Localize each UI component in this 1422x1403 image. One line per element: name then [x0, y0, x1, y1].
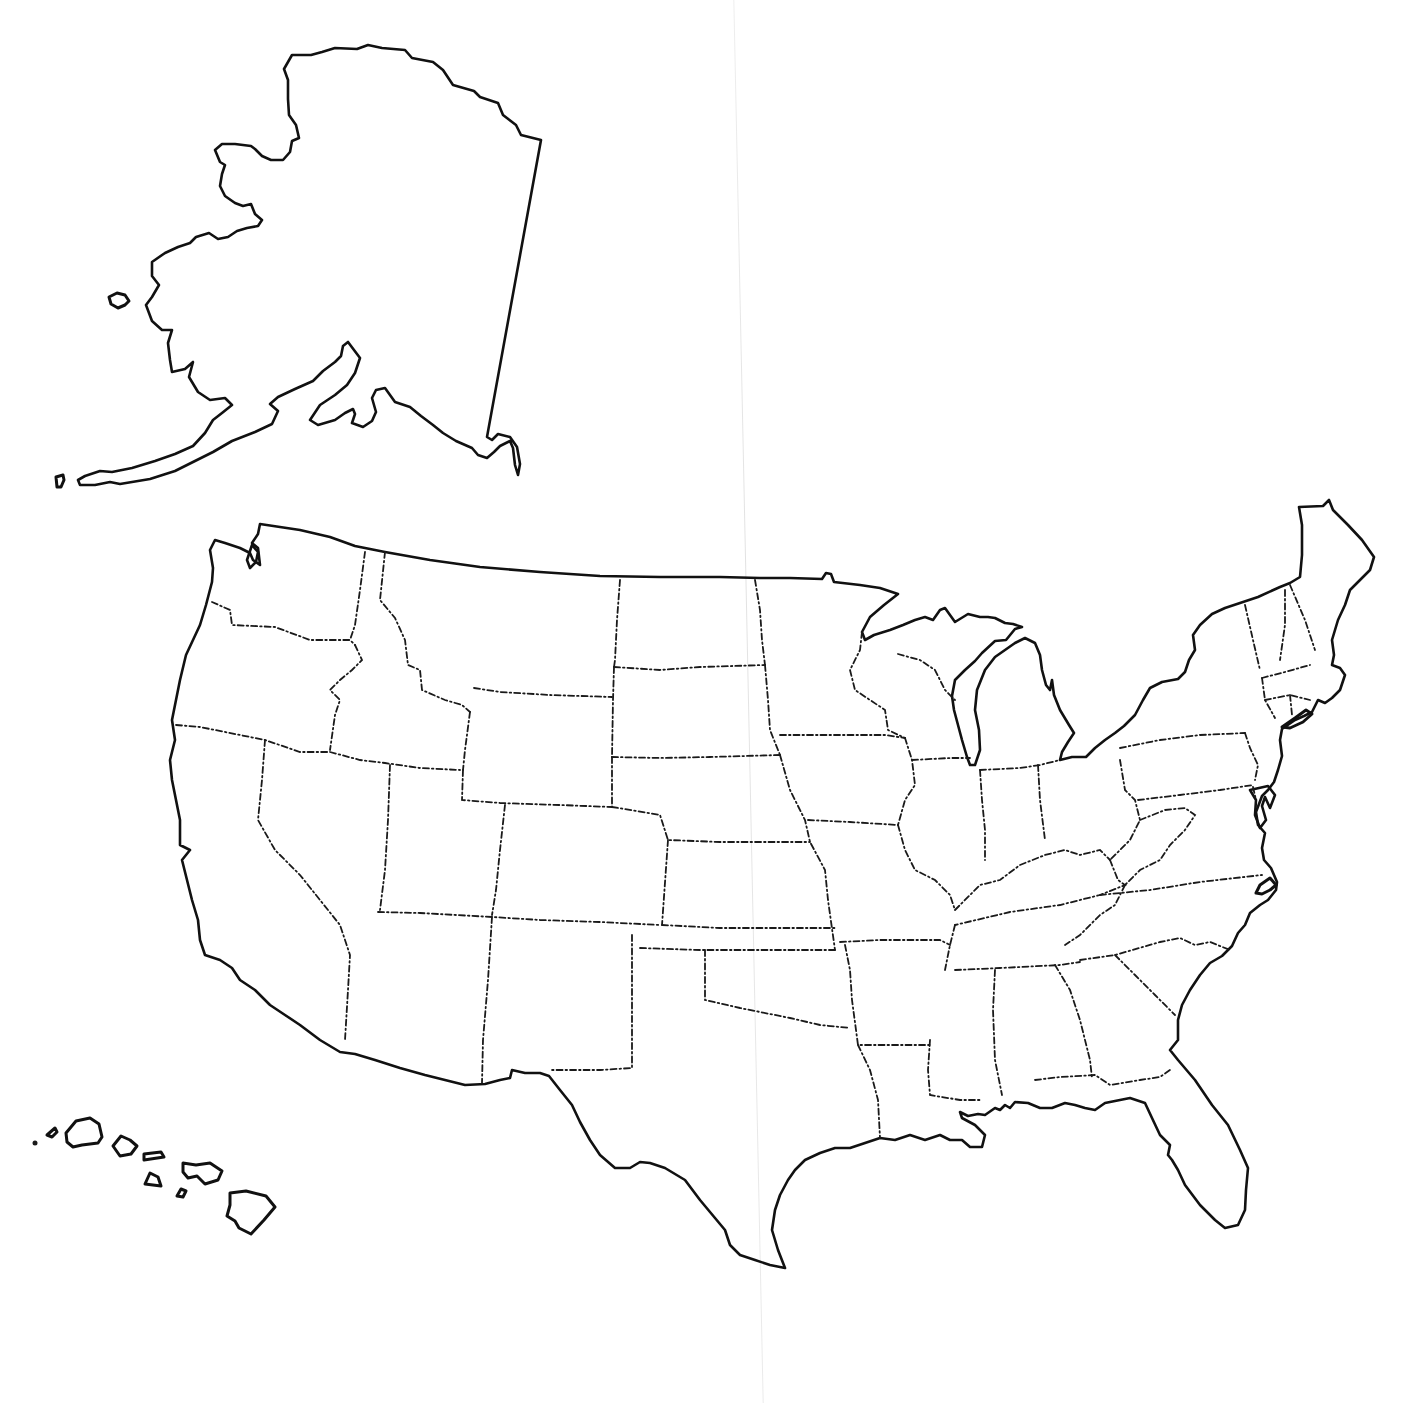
hawaii-outline: [33, 1118, 276, 1234]
contiguous-us-outline: [170, 500, 1374, 1268]
alaska-outline: [56, 45, 541, 487]
us-outline-map: [0, 0, 1422, 1403]
state-borders: [176, 552, 1315, 1138]
